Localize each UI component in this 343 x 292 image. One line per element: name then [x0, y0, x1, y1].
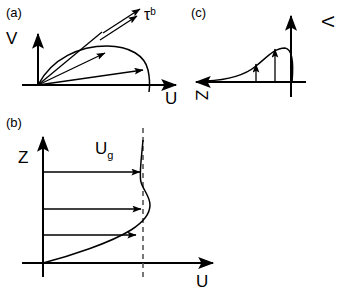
- ug-subscript: g: [107, 149, 113, 161]
- bottom-stress-arrow-lower: [100, 16, 137, 40]
- panel-c-z-axis-label: Z: [192, 90, 211, 100]
- panel-c-v-axis-label: V: [318, 16, 337, 28]
- panel-a: (a) V U τb: [6, 5, 177, 108]
- geostrophic-velocity-label: Ug: [95, 139, 113, 161]
- transport-profile-curve: [206, 48, 293, 82]
- diagram-svg: (a) V U τb (c) V Z (b): [0, 0, 343, 292]
- panel-c-tag: (c): [191, 5, 206, 20]
- bottom-stress-label: τb: [144, 6, 156, 23]
- panel-a-tag: (a): [6, 5, 22, 20]
- ekman-velocity-profile-curve: [43, 140, 150, 263]
- panel-b-tag: (b): [6, 115, 22, 130]
- bottom-stress-arrow-upper: [103, 9, 140, 33]
- tau-superscript: b: [150, 6, 156, 17]
- panel-b-u-axis-label: U: [196, 272, 208, 291]
- panel-a-x-axis-label: U: [165, 89, 177, 108]
- ug-base: U: [95, 139, 107, 158]
- panel-a-y-axis-label: V: [6, 29, 18, 48]
- panel-b-z-axis-label: Z: [18, 148, 28, 167]
- figure-container: (a) V U τb (c) V Z (b): [0, 0, 343, 292]
- panel-c: (c) V Z: [191, 5, 337, 100]
- panel-b: (b) Z U Ug: [6, 115, 213, 291]
